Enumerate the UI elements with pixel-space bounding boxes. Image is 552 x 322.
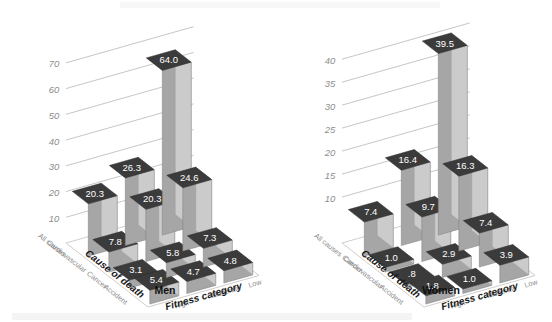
fitness-tick-label: Low [247, 277, 263, 289]
value-axis-ticks: 10152025303540 [324, 55, 336, 204]
bar-value-label: 7.3 [203, 232, 216, 243]
bar-value-label: 4.7 [187, 266, 200, 277]
bar-value-label: 64.0 [160, 54, 179, 65]
bar-value-label: 3.9 [500, 249, 513, 260]
bar-value-label: 1.0 [385, 252, 398, 263]
value-tick-label: 70 [49, 58, 60, 69]
value-tick-label: 15 [325, 170, 336, 181]
chart-panel-men: 20.37.826.33.120.364.05.45.824.64.77.34.… [0, 0, 276, 322]
chart-panel-women: 7.41.016.4.89.739.51.82.916.31.07.43.910… [276, 0, 552, 322]
bar-value-label: 16.3 [456, 160, 475, 171]
chart-figure: 20.37.826.33.120.364.05.45.824.64.77.34.… [0, 0, 552, 322]
bar-value-label: 9.7 [422, 201, 435, 212]
bar-value-label: 7.8 [109, 236, 122, 247]
bar-value-label: 24.6 [180, 172, 199, 183]
value-tick-label: 60 [49, 84, 60, 95]
value-tick-label: 10 [49, 213, 60, 224]
value-tick-label: 20 [324, 147, 336, 158]
bar-value-label: 1.0 [463, 273, 476, 284]
bar-value-label: 3.1 [129, 264, 142, 275]
value-tick-label: 50 [49, 110, 60, 121]
value-tick-label: 40 [49, 136, 60, 147]
value-tick-label: 10 [325, 193, 336, 204]
bar-value-label: .8 [408, 268, 416, 279]
bar-value-label: 7.4 [364, 206, 377, 217]
value-tick-label: 20 [48, 187, 60, 198]
cause-tick-label: All causes [313, 231, 345, 258]
value-tick-label: 30 [49, 161, 60, 172]
bar-value-label: 2.9 [442, 248, 455, 259]
bar-value-label: 5.8 [166, 247, 179, 258]
bar-value-label: 39.5 [436, 38, 455, 49]
bar-value-label: 4.8 [224, 255, 237, 266]
fitness-tick-label: Low [523, 277, 539, 289]
value-tick-label: 40 [325, 55, 336, 66]
bar-value-label: 20.3 [143, 193, 162, 204]
chart-svg-women: 7.41.016.4.89.739.51.82.916.31.07.43.910… [276, 0, 552, 322]
value-axis-ticks: 10203040506070 [48, 58, 60, 223]
bar-value-label: 7.4 [479, 217, 492, 228]
bar-value-label: 16.4 [399, 154, 418, 165]
chart-svg-men: 20.37.826.33.120.364.05.45.824.64.77.34.… [0, 0, 276, 322]
value-tick-label: 30 [325, 101, 336, 112]
bar-value-label: 20.3 [86, 188, 105, 199]
value-tick-label: 35 [325, 78, 336, 89]
value-tick-label: 25 [324, 124, 336, 135]
panel-title: Men [155, 284, 176, 296]
panel-title: Women [422, 284, 460, 296]
bar-value-label: 26.3 [123, 162, 142, 173]
